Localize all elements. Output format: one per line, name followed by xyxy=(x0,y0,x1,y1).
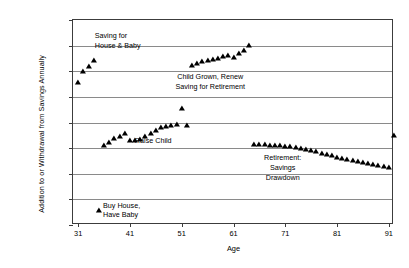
y-tick-mark xyxy=(69,199,73,200)
x-tick-mark xyxy=(337,223,338,227)
y-tick-mark xyxy=(69,123,73,124)
x-tick-label: 71 xyxy=(270,229,300,238)
annotation-retirement-drawdown: Retirement:SavingsDrawdown xyxy=(264,153,301,182)
annotation-saving-house-baby: Saving forHouse & Baby xyxy=(95,31,141,50)
y-axis-title: Addition to or Withdrawal from Savings A… xyxy=(37,35,46,233)
x-tick-mark xyxy=(78,223,79,227)
x-tick-label: 61 xyxy=(219,229,249,238)
annotation-line: Saving for Retirement xyxy=(175,82,245,92)
annotation-line: Saving for xyxy=(95,31,141,41)
y-tick-mark xyxy=(69,97,73,98)
data-point-marker xyxy=(246,43,252,48)
annotation-line: Child Grown, Renew xyxy=(175,72,245,82)
annotation-line: House & Baby xyxy=(95,41,141,51)
x-tick-mark xyxy=(130,223,131,227)
annotation-line: Have Baby xyxy=(103,210,140,220)
gridline xyxy=(73,148,392,149)
y-tick-mark xyxy=(69,225,73,226)
data-point-marker xyxy=(75,79,81,84)
x-tick-label: 51 xyxy=(167,229,197,238)
x-tick-mark xyxy=(285,223,286,227)
data-point-marker xyxy=(91,57,97,62)
y-tick-mark xyxy=(69,148,73,149)
data-point-marker xyxy=(391,133,397,138)
x-tick-mark xyxy=(182,223,183,227)
data-point-marker xyxy=(85,64,91,69)
data-point-marker xyxy=(179,105,185,110)
data-point-marker xyxy=(122,131,128,136)
x-tick-mark xyxy=(389,223,390,227)
data-point-marker xyxy=(80,69,86,74)
gridline xyxy=(73,123,392,124)
y-tick-mark xyxy=(69,20,73,21)
annotation-child-grown-retirement: Child Grown, RenewSaving for Retirement xyxy=(175,72,245,91)
annotation-buy-house-have-baby: Buy House,Have Baby xyxy=(103,201,140,220)
y-tick-mark xyxy=(69,46,73,47)
data-point-marker xyxy=(184,122,190,127)
y-tick-mark xyxy=(69,71,73,72)
gridline xyxy=(73,97,392,98)
annotation-raise-child: Raise Child xyxy=(135,136,172,146)
annotation-line: Drawdown xyxy=(264,173,301,183)
x-tick-label: 41 xyxy=(115,229,145,238)
data-point-marker xyxy=(173,121,179,126)
x-tick-mark xyxy=(234,223,235,227)
x-tick-label: 91 xyxy=(374,229,404,238)
data-point-marker xyxy=(96,207,102,212)
annotation-line: Savings xyxy=(264,163,301,173)
x-tick-label: 31 xyxy=(63,229,93,238)
data-point-marker xyxy=(241,47,247,52)
data-point-marker xyxy=(386,164,392,169)
chart-container: Addition to or Withdrawal from Savings A… xyxy=(0,0,409,268)
annotation-line: Buy House, xyxy=(103,201,140,211)
plot-area: $20,000$15,000$10,000$5,000$0-$5,000-$10… xyxy=(72,19,393,224)
annotation-line: Raise Child xyxy=(135,136,172,146)
gridline xyxy=(73,174,392,175)
y-tick-mark xyxy=(69,174,73,175)
annotation-line: Retirement: xyxy=(264,153,301,163)
x-axis-title: Age xyxy=(73,244,394,253)
x-tick-label: 81 xyxy=(322,229,352,238)
